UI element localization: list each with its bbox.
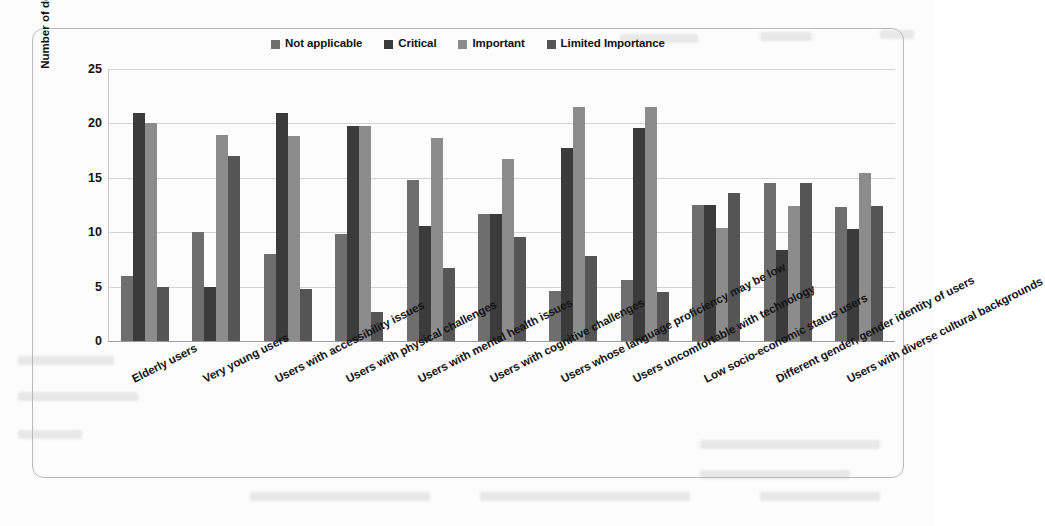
x-axis-category-labels: Elderly usersVery young usersUsers with … bbox=[33, 374, 905, 474]
bar-group bbox=[466, 69, 537, 341]
bar bbox=[157, 287, 169, 341]
y-axis-tick-label: 5 bbox=[95, 280, 102, 294]
legend-item: Not applicable bbox=[271, 38, 362, 50]
bar bbox=[145, 123, 157, 341]
bar-group bbox=[609, 69, 680, 341]
legend-item: Limited Importance bbox=[547, 38, 665, 50]
legend-item: Important bbox=[458, 38, 524, 50]
plot-wrapper: Number of developers 0510152025 bbox=[33, 61, 905, 371]
bar-group bbox=[109, 69, 180, 341]
bar bbox=[788, 206, 800, 341]
bar bbox=[704, 205, 716, 341]
legend-label: Important bbox=[472, 38, 524, 50]
bar bbox=[573, 107, 585, 341]
legend-label: Critical bbox=[398, 38, 436, 50]
legend-swatch-icon bbox=[458, 40, 467, 49]
bar bbox=[288, 136, 300, 341]
bar-group bbox=[180, 69, 251, 341]
bar-group bbox=[538, 69, 609, 341]
bar bbox=[478, 214, 490, 341]
bar bbox=[264, 254, 276, 341]
legend-swatch-icon bbox=[271, 40, 280, 49]
bar bbox=[347, 126, 359, 341]
legend-label: Not applicable bbox=[285, 38, 362, 50]
bar bbox=[192, 232, 204, 341]
bar bbox=[204, 287, 216, 341]
bar bbox=[335, 234, 347, 341]
bar bbox=[359, 126, 371, 341]
bar-group bbox=[252, 69, 323, 341]
bar bbox=[645, 107, 657, 341]
bar bbox=[502, 159, 514, 341]
bar bbox=[228, 156, 240, 341]
bar bbox=[276, 113, 288, 341]
bar bbox=[121, 276, 133, 341]
y-axis-tick-label: 20 bbox=[88, 116, 102, 130]
bar bbox=[835, 207, 847, 341]
y-axis-tick-label: 0 bbox=[95, 334, 102, 348]
legend-swatch-icon bbox=[384, 40, 393, 49]
chart-figure: Not applicable Critical Important Limite… bbox=[32, 28, 904, 478]
bar bbox=[692, 205, 704, 341]
bar bbox=[300, 289, 312, 341]
bar bbox=[847, 229, 859, 341]
bar bbox=[859, 173, 871, 341]
bar bbox=[419, 226, 431, 341]
chart-legend: Not applicable Critical Important Limite… bbox=[33, 35, 903, 53]
legend-label: Limited Importance bbox=[561, 38, 665, 50]
y-axis-tick-label: 25 bbox=[88, 62, 102, 76]
y-axis-tick-label: 15 bbox=[88, 171, 102, 185]
legend-swatch-icon bbox=[547, 40, 556, 49]
bar bbox=[800, 183, 812, 341]
bar bbox=[133, 113, 145, 341]
y-axis-tick-label: 10 bbox=[88, 225, 102, 239]
bar bbox=[490, 214, 502, 341]
bar-group bbox=[395, 69, 466, 341]
legend-item: Critical bbox=[384, 38, 436, 50]
bar bbox=[431, 138, 443, 341]
bar bbox=[216, 135, 228, 341]
y-axis-title: Number of developers bbox=[39, 0, 51, 103]
bar-group bbox=[323, 69, 394, 341]
